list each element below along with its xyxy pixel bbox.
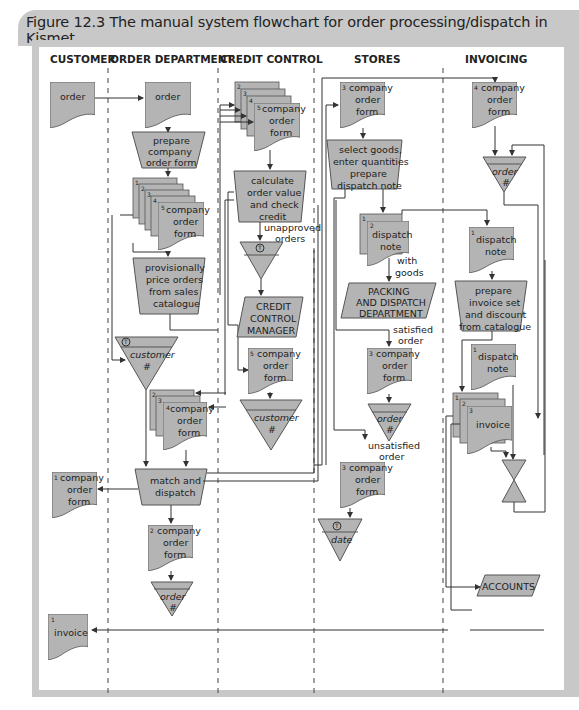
svg-text:select goods,: select goods,: [339, 144, 402, 155]
svg-text:3: 3: [342, 84, 346, 91]
svg-text:2: 2: [141, 185, 145, 192]
svg-text:CREDIT: CREDIT: [256, 301, 291, 312]
lane-invoicing: INVOICING: [465, 53, 528, 65]
unsatisfied-label-1: unsatisfied: [368, 440, 420, 451]
svg-text:prepare: prepare: [350, 168, 387, 179]
svg-text:form: form: [178, 427, 200, 438]
svg-text:T: T: [334, 522, 339, 529]
with-goods-label-2: goods: [395, 267, 424, 278]
packing-dept-manual-input: PACKING AND DISPATCH DEPARTMENT: [341, 283, 436, 319]
file-customer-cc: customer #: [240, 400, 302, 450]
svg-text:3: 3: [147, 191, 151, 198]
od-forms-stack: 1 2 3 4 5 company order form: [133, 178, 210, 250]
svg-text:dispatch: dispatch: [155, 487, 195, 498]
svg-text:4: 4: [153, 197, 157, 204]
svg-text:order: order: [355, 94, 380, 105]
prepare-form-process: prepare company order form: [132, 132, 205, 168]
svg-text:form: form: [68, 496, 90, 507]
svg-text:#: #: [502, 177, 510, 188]
svg-text:AND DISPATCH: AND DISPATCH: [356, 297, 426, 308]
file-date: T date: [318, 519, 362, 561]
svg-text:order: order: [163, 537, 188, 548]
svg-text:and check: and check: [250, 199, 299, 210]
prepare-invoice-process: prepare invoice set and discount from ca…: [455, 281, 531, 332]
svg-text:order: order: [173, 216, 198, 227]
svg-text:order value: order value: [247, 187, 301, 198]
svg-text:company: company: [170, 403, 214, 414]
match-dispatch-process: match and dispatch: [135, 469, 207, 505]
svg-text:3: 3: [243, 90, 247, 97]
svg-text:3: 3: [469, 407, 473, 414]
stores-form-3c-doc: 3 company order form: [340, 462, 393, 508]
svg-text:order: order: [382, 360, 407, 371]
svg-text:1: 1: [455, 394, 459, 401]
lane-order-department: ORDER DEPARTMENT: [110, 53, 235, 65]
svg-text:order: order: [355, 474, 380, 485]
inv-dispatch-note-doc: 1 dispatch note: [469, 227, 516, 273]
svg-text:note: note: [380, 241, 402, 252]
inv-form-4-doc: 4 company order form: [472, 82, 525, 128]
customer-invoice-doc: 1 invoice: [48, 614, 88, 660]
svg-text:order: order: [155, 91, 180, 102]
stores-form-3b-doc: 3 company order form: [367, 348, 420, 394]
svg-text:credit: credit: [259, 211, 286, 222]
svg-text:3: 3: [369, 350, 373, 357]
svg-text:invoice: invoice: [476, 419, 510, 430]
svg-text:customer: customer: [130, 349, 176, 360]
svg-text:form: form: [270, 127, 292, 138]
svg-text:catalogue: catalogue: [153, 298, 200, 309]
stores-form-3-doc: 3 company order form: [340, 82, 393, 128]
file-order-stores: order #: [368, 404, 411, 441]
svg-text:note: note: [487, 363, 509, 374]
customer-order-form-doc: 1 company order form: [52, 472, 104, 518]
svg-text:company: company: [376, 348, 420, 359]
svg-text:1: 1: [135, 179, 139, 186]
file-order-inv: order #: [483, 157, 526, 192]
svg-text:invoice: invoice: [54, 627, 88, 638]
lane-customer: CUSTOMER: [50, 53, 116, 65]
svg-text:2: 2: [370, 222, 374, 229]
flowchart: CUSTOMER ORDER DEPARTMENT CREDIT CONTROL…: [0, 0, 579, 710]
provisional-price-process: provisionally price orders from sales ca…: [133, 258, 205, 314]
svg-text:#: #: [386, 424, 394, 435]
svg-text:enter quantities: enter quantities: [333, 156, 409, 167]
svg-text:order: order: [60, 91, 85, 102]
svg-text:dispatch: dispatch: [478, 351, 518, 362]
svg-text:2: 2: [237, 83, 241, 90]
svg-text:form: form: [174, 228, 196, 239]
svg-text:1: 1: [51, 616, 55, 623]
file-order-od: order #: [151, 582, 193, 616]
od-form-2-doc: 2 company order form: [148, 525, 201, 571]
svg-text:order: order: [269, 115, 294, 126]
svg-text:company: company: [257, 348, 301, 359]
svg-text:order: order: [492, 166, 519, 177]
svg-text:#: #: [268, 424, 276, 435]
svg-text:match and: match and: [150, 475, 201, 486]
svg-text:T: T: [123, 338, 128, 345]
svg-text:form: form: [488, 106, 510, 117]
od-forms-returned-stack: 2 3 4 company order form: [150, 390, 214, 450]
svg-text:provisionally: provisionally: [145, 262, 205, 273]
svg-text:order: order: [487, 94, 512, 105]
svg-text:2: 2: [462, 400, 466, 407]
svg-text:order form: order form: [146, 157, 197, 168]
calc-credit-process: calculate order value and check credit: [234, 171, 306, 222]
svg-text:note: note: [485, 246, 507, 257]
lane-headers: CUSTOMER ORDER DEPARTMENT CREDIT CONTROL…: [50, 53, 528, 65]
svg-text:company: company: [481, 82, 525, 93]
svg-text:CONTROL: CONTROL: [250, 313, 297, 324]
svg-text:2: 2: [152, 391, 156, 398]
svg-text:order: order: [160, 591, 187, 602]
file-customer-od: T customer #: [115, 337, 178, 390]
svg-text:order: order: [67, 484, 92, 495]
svg-text:MANAGER: MANAGER: [247, 325, 295, 336]
satisfied-label-2: order: [398, 335, 423, 346]
svg-text:and discount: and discount: [465, 309, 527, 320]
file-unapproved: T: [240, 242, 283, 279]
collate-merge: [502, 460, 526, 502]
invoices-stack: 1 2 3 invoice: [453, 393, 512, 454]
svg-text:company: company: [349, 462, 393, 473]
svg-text:#: #: [169, 602, 177, 613]
svg-text:2: 2: [150, 527, 154, 534]
svg-text:1: 1: [362, 215, 366, 222]
